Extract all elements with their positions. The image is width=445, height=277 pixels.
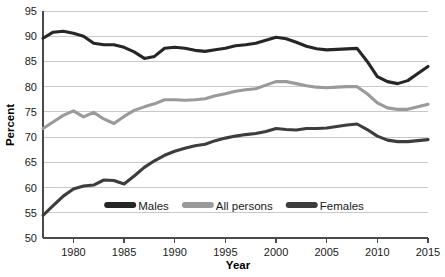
x-tick-label: 1985 bbox=[112, 246, 136, 258]
x-axis-tick-labels: 19801985199019952000200520102015 bbox=[61, 246, 440, 258]
x-tick-label: 1995 bbox=[213, 246, 237, 258]
y-tick-label: 80 bbox=[25, 81, 37, 93]
y-tick-label: 85 bbox=[25, 55, 37, 67]
x-tick-label: 2015 bbox=[416, 246, 440, 258]
y-tick-label: 90 bbox=[25, 30, 37, 42]
x-axis-title: Year bbox=[226, 259, 251, 271]
y-tick-label: 95 bbox=[25, 5, 37, 17]
x-tick-label: 2005 bbox=[314, 246, 338, 258]
x-tick-label: 1980 bbox=[61, 246, 85, 258]
x-tick-label: 2010 bbox=[365, 246, 389, 258]
y-tick-label: 55 bbox=[25, 207, 37, 219]
legend-label-all-persons: All persons bbox=[216, 200, 273, 212]
line-chart: 50556065707580859095 1980198519901995200… bbox=[0, 0, 445, 277]
y-tick-label: 75 bbox=[25, 106, 37, 118]
x-tick-label: 1990 bbox=[162, 246, 186, 258]
x-axis-tickmarks bbox=[73, 238, 428, 243]
legend-label-females: Females bbox=[320, 200, 364, 212]
y-axis-tick-labels: 50556065707580859095 bbox=[25, 5, 37, 244]
chart-legend: MalesAll personsFemales bbox=[107, 200, 364, 212]
legend-label-males: Males bbox=[138, 200, 169, 212]
x-tick-label: 2000 bbox=[264, 246, 288, 258]
y-tick-label: 50 bbox=[25, 232, 37, 244]
series-line-all-persons bbox=[43, 82, 428, 129]
y-tick-label: 60 bbox=[25, 182, 37, 194]
y-tick-label: 65 bbox=[25, 156, 37, 168]
series-line-males bbox=[43, 31, 428, 83]
y-tick-label: 70 bbox=[25, 131, 37, 143]
chart-canvas: 50556065707580859095 1980198519901995200… bbox=[0, 0, 445, 277]
y-axis-title: Percent bbox=[4, 104, 16, 146]
